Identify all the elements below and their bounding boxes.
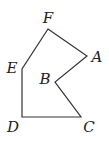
polygon-diagram: F A E B D C <box>0 0 109 141</box>
hexagon-ABCDEF <box>22 29 87 117</box>
vertex-label-c: C <box>83 118 95 136</box>
vertex-label-f: F <box>42 9 54 27</box>
vertex-label-d: D <box>6 118 19 136</box>
vertex-label-e: E <box>6 59 18 77</box>
vertex-label-a: A <box>90 48 103 66</box>
vertex-label-b: B <box>38 70 50 88</box>
